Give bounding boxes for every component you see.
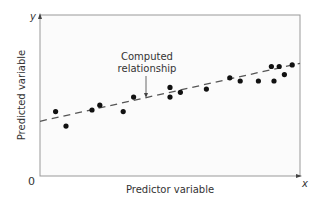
data-point bbox=[269, 64, 274, 69]
data-point bbox=[121, 109, 126, 114]
data-point bbox=[282, 72, 287, 77]
data-point bbox=[131, 95, 136, 100]
x-axis-letter: x bbox=[301, 178, 308, 189]
data-point bbox=[89, 107, 94, 112]
data-point bbox=[271, 78, 276, 83]
data-point bbox=[53, 109, 58, 114]
annotation-line-1: Computed bbox=[121, 51, 173, 62]
y-axis-label: Predicted variable bbox=[16, 50, 27, 140]
data-point bbox=[167, 95, 172, 100]
data-point bbox=[97, 103, 102, 108]
data-point bbox=[227, 75, 232, 80]
data-point bbox=[178, 90, 183, 95]
data-point bbox=[277, 64, 282, 69]
data-point bbox=[204, 86, 209, 91]
data-point bbox=[167, 85, 172, 90]
data-point bbox=[238, 78, 243, 83]
origin-label: 0 bbox=[28, 175, 35, 188]
data-point bbox=[256, 78, 261, 83]
scatter-chart: y x 0 Predictor variable Predicted varia… bbox=[0, 0, 331, 205]
annotation-line-2: relationship bbox=[118, 63, 177, 74]
data-point bbox=[290, 62, 295, 67]
data-point bbox=[63, 123, 68, 128]
y-axis-letter: y bbox=[29, 11, 37, 22]
x-axis-label: Predictor variable bbox=[126, 184, 214, 195]
